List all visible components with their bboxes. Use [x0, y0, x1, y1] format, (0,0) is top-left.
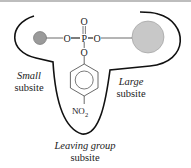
- large-subsite-label-line2: subsite: [116, 88, 146, 99]
- nitro-subscript: 2: [85, 111, 88, 118]
- small-group-circle: [34, 32, 47, 45]
- small-subsite-label-line1: Small: [17, 70, 41, 81]
- oxygen-left: O: [63, 33, 70, 44]
- leaving-group-subsite-label-line1: Leaving group: [53, 140, 115, 151]
- large-subsite-label-line1: Large: [118, 76, 144, 87]
- benzene-aromatic-circle: [75, 71, 93, 89]
- oxygen-top: O: [81, 16, 88, 27]
- nitro-main: NO: [72, 106, 85, 116]
- oxygen-bottom: O: [81, 47, 88, 58]
- enzyme-subsite-diagram: O O P O O NO2 Small subsite Large subsit…: [0, 0, 191, 168]
- oxygen-right: O: [93, 33, 100, 44]
- phosphorus-atom: P: [81, 33, 87, 44]
- nitro-group: NO2: [72, 106, 88, 118]
- leaving-group-subsite-label-line2: subsite: [70, 152, 100, 163]
- large-group-circle: [132, 21, 164, 53]
- benzene-ring: [70, 64, 98, 96]
- small-subsite-label-line2: subsite: [14, 82, 44, 93]
